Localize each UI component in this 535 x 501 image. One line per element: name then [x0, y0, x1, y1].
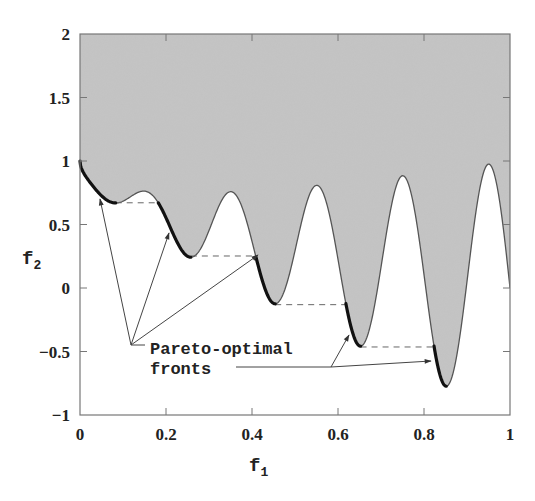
- pareto-chart: 00.20.40.60.81 −1−0.500.511.52 f1 f2 Par…: [0, 0, 535, 501]
- annotation-line1: Pareto-optimal: [150, 340, 293, 359]
- annotation-line2: fronts: [150, 360, 211, 379]
- x-tick-label: 0.4: [241, 425, 263, 444]
- x-tick-label: 0.8: [413, 425, 434, 444]
- y-tick-label: 1.5: [49, 89, 70, 108]
- y-tick-label: 0: [62, 279, 71, 298]
- feasible-region: [80, 34, 510, 386]
- y-tick-label: −0.5: [39, 343, 70, 362]
- y-tick-label: −1: [52, 406, 70, 425]
- y-tick-label: 1: [62, 152, 71, 171]
- x-tick-label: 0.6: [327, 425, 348, 444]
- y-axis-label: f2: [22, 248, 41, 273]
- x-axis-label: f1: [249, 455, 268, 480]
- y-tick-label: 2: [62, 25, 71, 44]
- x-tick-label: 1: [506, 425, 515, 444]
- y-tick-label: 0.5: [49, 216, 70, 235]
- x-tick-label: 0.2: [155, 425, 176, 444]
- x-tick-label: 0: [76, 425, 85, 444]
